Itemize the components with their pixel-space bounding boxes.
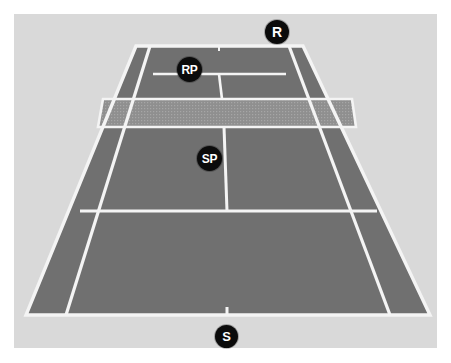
marker-receivers-partner-label: RP bbox=[181, 63, 197, 77]
marker-server-label: S bbox=[222, 329, 230, 344]
marker-servers-partner[interactable]: SP bbox=[197, 146, 222, 171]
marker-receiver-label: R bbox=[272, 24, 282, 40]
marker-server[interactable]: S bbox=[215, 325, 238, 348]
marker-servers-partner-label: SP bbox=[202, 152, 217, 166]
court-graphic bbox=[0, 0, 451, 363]
tennis-court-diagram: R RP SP S bbox=[0, 0, 451, 363]
marker-receivers-partner[interactable]: RP bbox=[177, 57, 202, 82]
marker-receiver[interactable]: R bbox=[265, 20, 289, 44]
